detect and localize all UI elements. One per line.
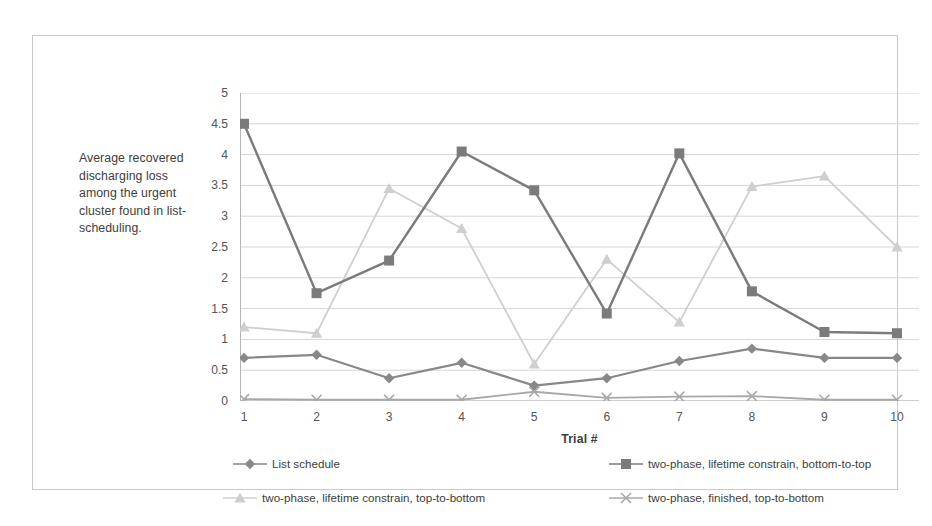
y-tick-label: 0.5 [188, 363, 228, 377]
y-tick-label: 2.5 [188, 240, 228, 254]
data-point-marker [602, 309, 612, 319]
data-point-marker [312, 288, 322, 298]
x-tick-label: 4 [442, 410, 482, 424]
y-tick-label: 5 [188, 86, 228, 100]
series-2 [240, 119, 902, 338]
y-tick-label: 1.5 [188, 302, 228, 316]
x-tick-label: 2 [297, 410, 337, 424]
series-line [244, 392, 897, 400]
legend-item[interactable]: two-phase, finished, top-to-bottom [609, 491, 824, 504]
data-point-marker [674, 356, 684, 366]
y-tick-label: 4.5 [188, 117, 228, 131]
y-tick-label: 2 [188, 271, 228, 285]
series-line [244, 124, 897, 333]
series-3 [240, 171, 903, 369]
plot-canvas [240, 93, 919, 401]
data-point-marker [529, 185, 539, 195]
data-point-marker [747, 286, 757, 296]
data-point-marker [819, 171, 830, 181]
legend-label: two-phase, lifetime constrain, bottom-to… [648, 457, 871, 470]
data-point-marker [240, 119, 249, 129]
x-axis-title: Trial # [240, 432, 919, 446]
legend-marker-square-icon [609, 458, 643, 470]
data-point-marker [602, 373, 612, 383]
data-point-marker [674, 148, 684, 158]
data-point-marker [384, 256, 394, 266]
series-1 [240, 343, 902, 390]
data-point-marker [311, 350, 321, 360]
y-tick-label: 4 [188, 148, 228, 162]
data-point-marker [240, 321, 250, 331]
series-line [244, 349, 897, 386]
legend-item[interactable]: two-phase, lifetime constrain, top-to-bo… [223, 491, 485, 504]
data-point-marker [819, 327, 829, 337]
data-point-marker [747, 343, 757, 353]
legend-item[interactable]: List schedule [233, 457, 340, 470]
y-tick-label: 1 [188, 332, 228, 346]
data-point-marker [621, 459, 631, 469]
y-axis-caption: Average recovered discharging loss among… [79, 150, 209, 238]
legend-label: List schedule [272, 457, 340, 470]
figure-frame: Average recovered discharging loss among… [32, 35, 898, 490]
data-point-marker [384, 183, 395, 193]
x-tick-label: 9 [804, 410, 844, 424]
data-point-marker [240, 353, 249, 363]
y-tick-label: 0 [188, 394, 228, 408]
x-tick-label: 10 [877, 410, 917, 424]
legend-label: two-phase, lifetime constrain, top-to-bo… [262, 491, 485, 504]
plot-area [240, 93, 919, 401]
data-point-marker [601, 254, 612, 264]
x-tick-label: 1 [224, 410, 264, 424]
series-line [244, 176, 897, 364]
data-point-marker [456, 358, 466, 368]
legend-marker-diamond-icon [233, 458, 267, 470]
data-point-marker [456, 223, 467, 233]
y-tick-label: 3.5 [188, 178, 228, 192]
data-point-marker [457, 147, 467, 157]
x-tick-label: 5 [514, 410, 554, 424]
legend-item[interactable]: two-phase, lifetime constrain, bottom-to… [609, 457, 871, 470]
x-tick-label: 8 [732, 410, 772, 424]
legend-marker-cross-icon [609, 492, 643, 504]
legend-marker-triangle-icon [223, 492, 257, 504]
data-point-marker [245, 458, 255, 468]
data-point-marker [384, 373, 394, 383]
y-tick-label: 3 [188, 209, 228, 223]
x-tick-label: 6 [587, 410, 627, 424]
data-point-marker [819, 353, 829, 363]
legend-label: two-phase, finished, top-to-bottom [648, 491, 824, 504]
data-point-marker [892, 353, 902, 363]
x-tick-label: 7 [659, 410, 699, 424]
series-4 [240, 387, 902, 401]
x-tick-label: 3 [369, 410, 409, 424]
chart-legend: List schedule two-phase, lifetime constr… [223, 453, 923, 515]
data-point-marker [892, 328, 902, 338]
chart-screenshot: Average recovered discharging loss among… [0, 0, 932, 526]
